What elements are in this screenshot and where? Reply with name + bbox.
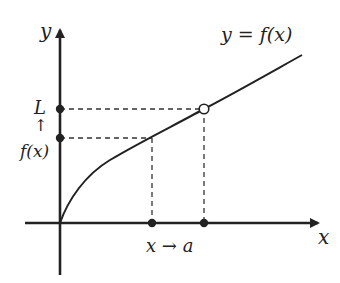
up-arrow-icon: ↑ bbox=[34, 116, 47, 135]
point-L-on-y-axis bbox=[56, 105, 64, 113]
limit-label-L: L bbox=[33, 97, 46, 118]
point-x-on-x-axis bbox=[148, 219, 156, 227]
point-fx-on-y-axis bbox=[56, 134, 64, 142]
open-circle-limit-point bbox=[199, 104, 209, 114]
function-value-label: f(x) bbox=[18, 141, 49, 161]
point-a-on-x-axis bbox=[200, 219, 208, 227]
curve-label: y = f(x) bbox=[220, 23, 292, 45]
limit-diagram: y x y = f(x) L ↑ f(x) x → a bbox=[0, 0, 340, 283]
y-axis-label: y bbox=[39, 19, 52, 43]
function-curve bbox=[60, 55, 302, 223]
dashed-guides bbox=[60, 109, 204, 223]
x-approaches-a-label: x → a bbox=[146, 235, 193, 256]
x-axis-label: x bbox=[318, 225, 329, 249]
